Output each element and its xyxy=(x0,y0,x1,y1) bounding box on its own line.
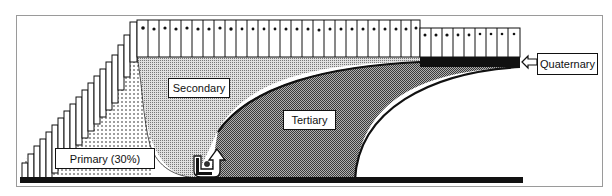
top-row-columns xyxy=(137,20,420,57)
filtration-diagram: Primary (30%) Secondary Tertiary Quatern… xyxy=(0,0,612,196)
lower-row-columns xyxy=(420,28,520,57)
base-bar xyxy=(20,177,523,183)
tertiary-label: Tertiary xyxy=(283,110,336,130)
primary-label: Primary (30%) xyxy=(55,148,155,169)
quaternary-label: Quaternary xyxy=(537,53,598,75)
secondary-label: Secondary xyxy=(168,78,230,98)
quaternary-bar xyxy=(420,57,520,67)
